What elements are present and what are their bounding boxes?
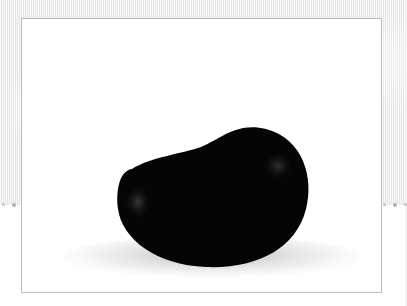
black-bean xyxy=(96,109,316,274)
right-dot-ornament xyxy=(383,203,407,207)
dot xyxy=(12,203,16,207)
dot xyxy=(393,203,397,207)
dot xyxy=(2,203,5,206)
photo-frame xyxy=(21,18,382,293)
bean-highlight-right xyxy=(262,151,294,181)
bean-highlight-left xyxy=(124,184,152,220)
dot xyxy=(383,203,386,206)
